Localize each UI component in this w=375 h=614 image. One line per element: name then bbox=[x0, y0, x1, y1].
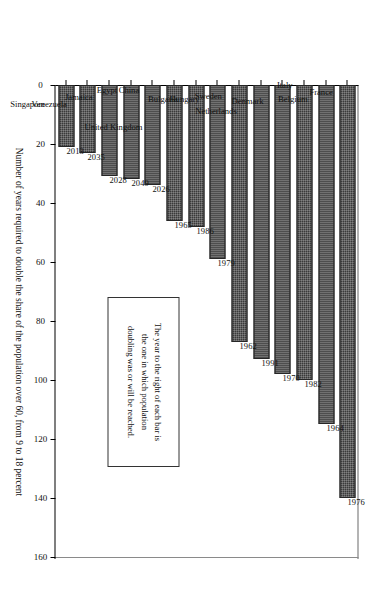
category-tick bbox=[86, 80, 87, 85]
bar bbox=[123, 85, 139, 179]
category-tick bbox=[260, 80, 261, 85]
value-tick bbox=[50, 321, 55, 322]
bar-value-label: 1976 bbox=[347, 497, 364, 507]
value-tick bbox=[50, 85, 55, 86]
bar-value-label: 1964 bbox=[326, 423, 343, 433]
bar-value-label: 2049 bbox=[131, 178, 148, 188]
bar-value-label: 1986 bbox=[196, 226, 213, 236]
bar bbox=[231, 85, 247, 342]
category-tick bbox=[173, 80, 174, 85]
category-label: Netherlands bbox=[195, 106, 237, 116]
value-tick-label: 140 bbox=[33, 493, 47, 503]
category-tick bbox=[130, 80, 131, 85]
category-label: Denmark bbox=[231, 96, 263, 106]
value-tick bbox=[50, 557, 55, 558]
bar-value-label: 2013 bbox=[66, 146, 83, 156]
category-tick bbox=[151, 80, 152, 85]
bar-series: 1976196419821970199119621979198619652026… bbox=[55, 85, 358, 559]
value-tick-label: 40 bbox=[36, 198, 45, 208]
value-tick bbox=[50, 439, 55, 440]
value-tick-label: 100 bbox=[33, 375, 47, 385]
category-tick bbox=[346, 80, 347, 85]
value-tick-label: 0 bbox=[38, 80, 43, 90]
category-label: Italy bbox=[277, 80, 293, 90]
category-label: Jamaica bbox=[64, 92, 92, 102]
bar bbox=[166, 85, 182, 221]
category-tick bbox=[281, 80, 282, 85]
bar-value-label: 2035 bbox=[87, 152, 104, 162]
annotation-line-1: The year to the right of each bar is bbox=[150, 323, 163, 441]
category-label: France bbox=[309, 87, 332, 97]
annotation-line-3: doubling was or will be reached. bbox=[123, 323, 136, 441]
category-tick bbox=[216, 80, 217, 85]
bar-chart-figure: 1976196419821970199119621979198619652026… bbox=[0, 0, 375, 614]
bar bbox=[274, 85, 290, 374]
value-tick bbox=[50, 203, 55, 204]
bar-value-label: 1965 bbox=[174, 220, 191, 230]
bar bbox=[296, 85, 312, 380]
bar-value-label: 1979 bbox=[217, 258, 234, 268]
category-tick bbox=[108, 80, 109, 85]
value-tick bbox=[50, 262, 55, 263]
bar-value-label: 1962 bbox=[239, 341, 256, 351]
value-tick bbox=[50, 144, 55, 145]
category-tick bbox=[65, 80, 66, 85]
value-tick-label: 20 bbox=[36, 139, 45, 149]
annotation-line-2: the one in which population bbox=[136, 323, 149, 441]
category-tick bbox=[195, 80, 196, 85]
category-tick bbox=[325, 80, 326, 85]
bar bbox=[339, 85, 355, 498]
value-tick-label: 160 bbox=[33, 552, 47, 562]
value-tick-label: 80 bbox=[36, 316, 45, 326]
category-tick bbox=[238, 80, 239, 85]
bar-value-label: 2026 bbox=[152, 184, 169, 194]
value-tick bbox=[50, 498, 55, 499]
value-axis-title: Number of years required to double the s… bbox=[13, 85, 23, 559]
chart-canvas: 1976196419821970199119621979198619652026… bbox=[0, 0, 375, 614]
bar-value-label: 1970 bbox=[282, 373, 299, 383]
category-tick bbox=[303, 80, 304, 85]
category-label: United Kingdom bbox=[84, 122, 142, 132]
value-tick-label: 120 bbox=[33, 434, 47, 444]
bar bbox=[318, 85, 334, 424]
value-tick-label: 60 bbox=[36, 257, 45, 267]
category-label: China bbox=[118, 85, 139, 95]
bar bbox=[253, 85, 269, 359]
value-tick bbox=[50, 380, 55, 381]
annotation-box: The year to the right of each bar is the… bbox=[107, 297, 179, 467]
bar-value-label: 1991 bbox=[261, 358, 278, 368]
bar-value-label: 1982 bbox=[304, 379, 321, 389]
category-label: Egypt bbox=[96, 85, 117, 95]
bar-value-label: 2028 bbox=[109, 175, 126, 185]
annotation-text: The year to the right of each bar is the… bbox=[123, 317, 163, 447]
category-label: Bulgaria bbox=[148, 94, 178, 104]
category-label: Belgium bbox=[278, 94, 308, 104]
